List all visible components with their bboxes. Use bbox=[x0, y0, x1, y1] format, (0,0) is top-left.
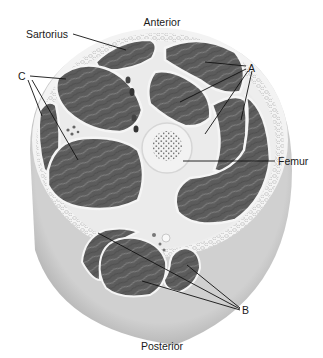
thigh-cross-section-diagram: Anterior Sartorius C A Femur B Posterior bbox=[0, 0, 323, 358]
group-b-label: B bbox=[242, 304, 249, 316]
posterior-label: Posterior bbox=[141, 340, 184, 352]
group-a-label: A bbox=[248, 62, 255, 74]
sartorius-label: Sartorius bbox=[26, 28, 68, 40]
femur-label: Femur bbox=[278, 155, 309, 167]
femur-bone bbox=[142, 123, 192, 173]
anterior-label: Anterior bbox=[144, 16, 181, 28]
group-c-label: C bbox=[18, 70, 26, 82]
